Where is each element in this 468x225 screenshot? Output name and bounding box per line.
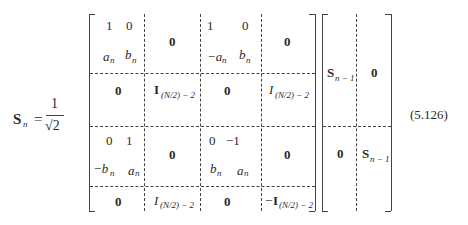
identity-subscript: (N/2) − 2: [160, 201, 194, 210]
partition-h: [323, 126, 391, 127]
left-bracket: [89, 14, 90, 211]
entry-subscript: n: [110, 169, 115, 178]
zero-block: 0: [284, 148, 291, 161]
zero-block: 0: [371, 66, 378, 79]
zero-block: 0: [169, 148, 176, 161]
entry: 0: [106, 134, 113, 147]
fraction-bar: [46, 115, 64, 116]
zero-block: 0: [169, 35, 176, 48]
partition-v1: [144, 14, 145, 211]
right-bracket-bottom: [385, 211, 391, 212]
entry: a: [128, 164, 135, 177]
entry-subscript: n: [110, 56, 115, 65]
partition-h3: [90, 186, 315, 187]
entry: 0: [126, 19, 133, 32]
left-bracket-bottom: [322, 211, 328, 212]
entry-subscript: n: [222, 56, 227, 65]
identity-block: I: [154, 194, 158, 207]
entry: a: [237, 164, 244, 177]
entry: −b: [93, 162, 108, 175]
entry: 1: [207, 19, 214, 32]
left-bracket: [322, 14, 323, 211]
identity-subscript: (N/2) − 2: [161, 91, 195, 100]
entry: b: [125, 48, 132, 61]
identity-subscript: (N/2) − 2: [275, 91, 309, 100]
zero-block: 0: [224, 84, 231, 97]
s-block: S: [327, 66, 334, 79]
zero-block: 0: [115, 84, 122, 97]
equals-sign: =: [34, 112, 42, 127]
entry-subscript: n: [217, 169, 222, 178]
entry-subscript: n: [135, 169, 140, 178]
identity-block: I: [273, 194, 278, 207]
equation-number: (5.126): [410, 108, 448, 121]
entry-subscript: n: [132, 56, 137, 65]
partition-h2: [90, 126, 315, 127]
entry: −1: [226, 134, 240, 147]
entry: 0: [209, 134, 216, 147]
zero-block: 0: [337, 147, 344, 160]
zero-block: 0: [284, 35, 291, 48]
right-bracket-top: [309, 14, 315, 15]
right-bracket: [315, 14, 316, 211]
zero-block: 0: [115, 195, 122, 208]
right-bracket-bottom: [309, 211, 315, 212]
entry-subscript: n: [244, 169, 249, 178]
fraction-denominator: √2: [45, 119, 60, 133]
entry: a: [103, 50, 110, 63]
left-bracket-top: [89, 14, 95, 15]
right-bracket-top: [385, 14, 391, 15]
partition-v3: [261, 14, 262, 211]
lhs-subscript: n: [23, 120, 28, 129]
left-bracket-top: [322, 14, 328, 15]
minus-sign: −: [265, 194, 272, 207]
partition-v: [356, 14, 357, 211]
s-subscript: n − 1: [370, 155, 390, 164]
partition-h1: [90, 73, 315, 74]
partition-v2: [200, 14, 201, 211]
left-bracket-bottom: [89, 211, 95, 212]
zero-block: 0: [224, 195, 231, 208]
right-bracket: [391, 14, 392, 211]
identity-block: I: [269, 83, 273, 96]
entry: 1: [106, 19, 113, 32]
s-block: S: [362, 147, 369, 160]
entry: b: [210, 162, 217, 175]
lhs-symbol: S: [13, 112, 21, 127]
entry: 0: [242, 19, 249, 32]
entry: b: [239, 48, 246, 61]
s-subscript: n − 1: [335, 74, 355, 83]
fraction-numerator: 1: [51, 97, 58, 111]
entry: −a: [207, 50, 222, 63]
entry-subscript: n: [246, 56, 251, 65]
entry: 1: [126, 134, 133, 147]
identity-subscript: (N/2) − 2: [279, 201, 313, 210]
identity-block: I: [154, 83, 159, 96]
